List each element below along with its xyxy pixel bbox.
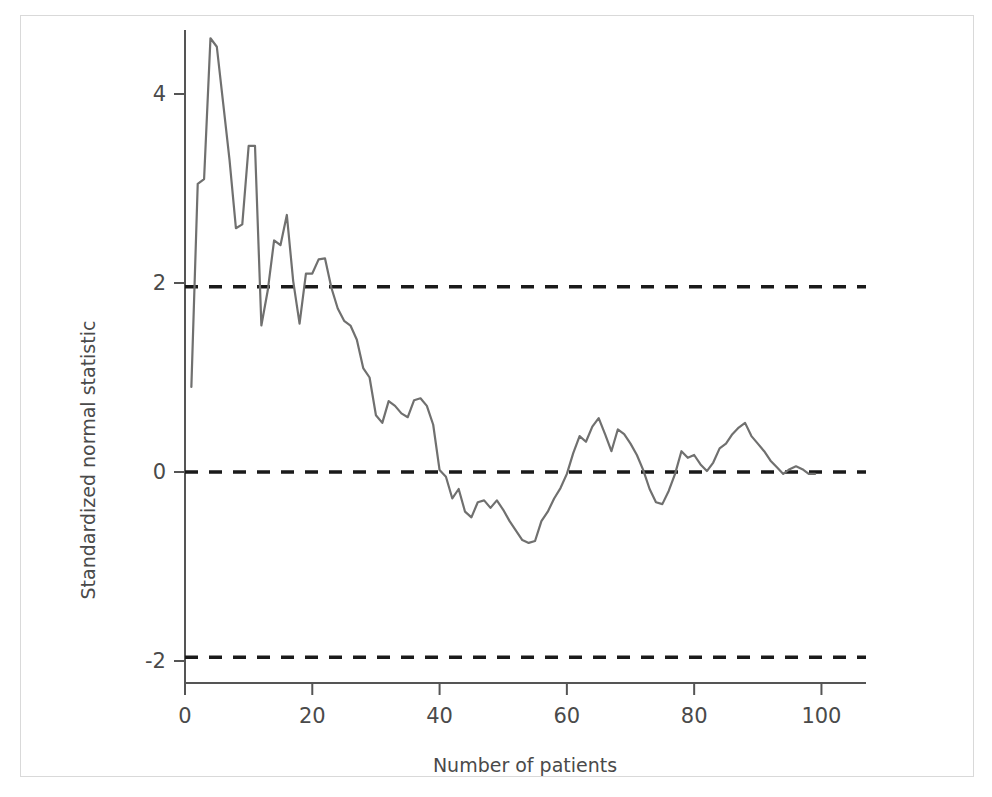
y-tick-label: 4 (153, 82, 166, 106)
x-tick-group: 020406080100 (178, 683, 841, 728)
x-tick-label: 100 (801, 704, 841, 728)
y-tick-group: -2024 (145, 82, 185, 673)
x-axis-title: Number of patients (433, 754, 617, 776)
data-series-group (191, 38, 815, 543)
x-tick-label: 40 (426, 704, 453, 728)
x-tick-label: 80 (681, 704, 708, 728)
y-tick-label: -2 (145, 649, 166, 673)
x-tick-label: 60 (554, 704, 581, 728)
chart-area: -2024 020406080100 Standardized normal s… (0, 0, 992, 797)
series-line-standardized-normal-statistic (191, 38, 815, 543)
x-tick-label: 20 (299, 704, 326, 728)
y-tick-label: 0 (153, 460, 166, 484)
y-axis-title: Standardized normal statistic (77, 321, 99, 600)
reference-line-group (185, 287, 866, 657)
chart-svg: -2024 020406080100 Standardized normal s… (0, 0, 992, 797)
y-tick-label: 2 (153, 271, 166, 295)
x-tick-label: 0 (178, 704, 191, 728)
